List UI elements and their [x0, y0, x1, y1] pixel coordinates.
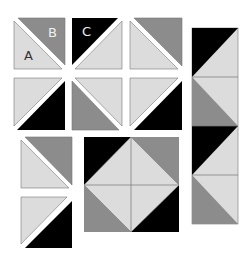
hst-unit-left-bottom — [21, 197, 72, 248]
label-a: A — [24, 48, 33, 63]
hst-unit-top-right — [130, 18, 182, 69]
quilt-diagram: B A C — [0, 0, 252, 259]
label-c: C — [82, 24, 91, 39]
label-b: B — [48, 25, 57, 40]
square-in-square-block — [84, 137, 179, 232]
hst-unit-row2-left — [14, 78, 65, 130]
hst-unit-row2-right — [130, 78, 182, 130]
hst-unit-a-b — [14, 18, 65, 69]
hst-unit-left-top — [21, 137, 72, 188]
hst-unit-row2-mid — [72, 78, 122, 130]
hst-unit-c — [72, 18, 122, 69]
flying-geese-strip — [192, 28, 238, 224]
